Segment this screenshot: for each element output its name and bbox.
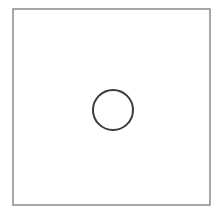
diagram-canvas <box>0 0 222 213</box>
square-frame <box>13 9 210 205</box>
center-circle <box>93 90 133 130</box>
diagram-svg <box>0 0 222 213</box>
